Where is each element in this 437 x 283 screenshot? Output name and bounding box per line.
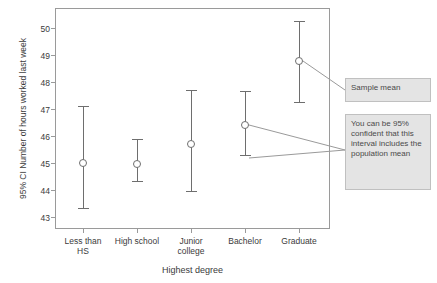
mean-marker xyxy=(187,140,195,148)
error-bar-cap-lower xyxy=(294,102,305,103)
x-tick-label-line: college xyxy=(159,246,223,256)
x-tick-mark xyxy=(245,229,246,233)
y-tick-mark xyxy=(51,55,55,56)
y-tick-mark xyxy=(51,82,55,83)
y-tick-mark xyxy=(51,217,55,218)
y-axis-title: 95% CI Number of hours worked last week xyxy=(18,8,28,229)
y-tick-label: 45 xyxy=(28,159,50,169)
y-tick-label: 49 xyxy=(28,51,50,61)
error-bar-cap-lower xyxy=(240,155,251,156)
y-tick-label: 48 xyxy=(28,78,50,88)
mean-marker xyxy=(133,160,141,168)
x-tick-label-line: HS xyxy=(51,246,115,256)
error-bar-cap-upper xyxy=(186,90,197,91)
x-axis-title: Highest degree xyxy=(55,265,330,275)
error-bar-cap-upper xyxy=(78,106,89,107)
x-tick-mark xyxy=(137,229,138,233)
y-tick-mark xyxy=(51,109,55,110)
error-bar-cap-lower xyxy=(78,208,89,209)
y-tick-label: 43 xyxy=(28,213,50,223)
x-tick-label-graduate: Graduate xyxy=(267,236,331,246)
mean-marker xyxy=(295,57,303,65)
plot-area xyxy=(55,8,330,229)
x-tick-label-line: Graduate xyxy=(267,236,331,246)
error-bar-cap-lower xyxy=(132,181,143,182)
y-tick-label: 47 xyxy=(28,105,50,115)
y-tick-mark xyxy=(51,28,55,29)
y-tick-label: 46 xyxy=(28,132,50,142)
callout-sample-mean: Sample mean xyxy=(345,78,431,102)
error-bar-cap-upper xyxy=(132,139,143,140)
mean-marker xyxy=(241,121,249,129)
x-tick-mark xyxy=(299,229,300,233)
error-bar-cap-lower xyxy=(186,191,197,192)
mean-marker xyxy=(79,159,87,167)
x-tick-mark xyxy=(83,229,84,233)
chart-figure: 95% CI Number of hours worked last week … xyxy=(0,0,437,283)
y-tick-label: 50 xyxy=(28,24,50,34)
y-tick-mark xyxy=(51,163,55,164)
callout-confidence-interval: You can be 95% confident that this inter… xyxy=(345,114,431,190)
y-tick-mark xyxy=(51,136,55,137)
error-bar-cap-upper xyxy=(240,91,251,92)
x-tick-mark xyxy=(191,229,192,233)
error-bar-line xyxy=(83,106,84,208)
y-tick-label: 44 xyxy=(28,186,50,196)
y-axis-title-wrap: 95% CI Number of hours worked last week xyxy=(6,8,20,229)
error-bar-cap-upper xyxy=(294,21,305,22)
y-tick-mark xyxy=(51,190,55,191)
